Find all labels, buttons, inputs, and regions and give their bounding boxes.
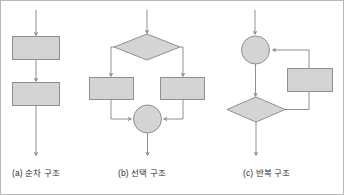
caption-panel-a: (a) 순차 구조 (12, 166, 60, 178)
caption-panel-b: (b) 선택 구조 (118, 166, 166, 178)
node-branch-right (161, 78, 205, 100)
node-process-1 (13, 37, 60, 60)
caption-panel-c: (c) 반복 구조 (243, 166, 291, 178)
node-process-2 (13, 83, 60, 106)
node-loop-junction (242, 36, 270, 64)
node-merge (134, 105, 162, 133)
node-loop-body (288, 69, 333, 92)
node-branch-left (90, 78, 134, 100)
